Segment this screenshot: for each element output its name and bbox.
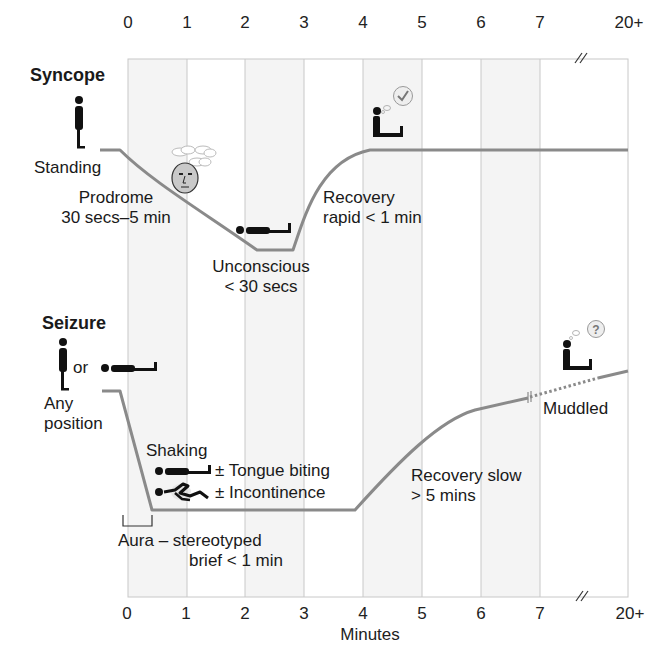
or-label: or [73, 358, 88, 378]
seizure-title: Seizure [42, 313, 106, 333]
sitting-person-question-icon: ? [563, 321, 605, 371]
syncope-recovery-label: Recovery rapid < 1 min [323, 188, 422, 228]
dizzy-face-icon [172, 146, 216, 193]
bottom-tick-7: 7 [535, 604, 544, 624]
prodrome-label: Prodrome 30 secs–5 min [46, 188, 186, 228]
top-tick-2: 2 [240, 13, 249, 33]
x-axis-label: Minutes [340, 625, 400, 645]
syncope-vs-seizure-diagram: ? 0 1 2 3 4 5 6 7 20+ 0 1 2 3 4 5 6 7 20… [0, 0, 670, 666]
top-tick-5: 5 [417, 13, 426, 33]
shaking-label: Shaking [146, 441, 207, 461]
shaded-columns [128, 59, 540, 597]
top-tick-4: 4 [358, 13, 367, 33]
top-tick-0: 0 [123, 13, 132, 33]
diagram-canvas: ? [0, 0, 670, 666]
bottom-tick-20plus: 20+ [616, 604, 645, 624]
bottom-tick-0: 0 [122, 604, 131, 624]
bottom-tick-6: 6 [476, 604, 485, 624]
bottom-tick-1: 1 [181, 604, 190, 624]
aura-label-line1: Aura – stereotyped [118, 531, 262, 551]
top-tick-7: 7 [535, 13, 544, 33]
aura-label-line2: brief < 1 min [189, 551, 283, 571]
muddled-label: Muddled [543, 399, 608, 419]
bottom-tick-3: 3 [299, 604, 308, 624]
top-tick-1: 1 [182, 13, 191, 33]
any-position-label: Any position [44, 394, 103, 434]
bottom-tick-4: 4 [358, 604, 367, 624]
syncope-title: Syncope [30, 65, 105, 85]
tongue-biting-label: ± Tongue biting [215, 461, 330, 481]
seizure-standing-person-icon [59, 338, 69, 391]
top-tick-20plus: 20+ [615, 13, 644, 33]
top-tick-6: 6 [476, 13, 485, 33]
axis-break-icon [575, 53, 588, 601]
top-tick-3: 3 [299, 13, 308, 33]
bottom-tick-2: 2 [240, 604, 249, 624]
svg-text:?: ? [592, 323, 599, 337]
incontinence-label: ± Incontinence [215, 483, 325, 503]
unconscious-label: Unconscious < 30 secs [198, 257, 324, 297]
standing-person-icon [75, 96, 85, 149]
bottom-tick-5: 5 [417, 604, 426, 624]
standing-label: Standing [34, 158, 101, 178]
seizure-curve-tail [598, 371, 628, 378]
seizure-recovery-label: Recovery slow > 5 mins [411, 466, 522, 506]
